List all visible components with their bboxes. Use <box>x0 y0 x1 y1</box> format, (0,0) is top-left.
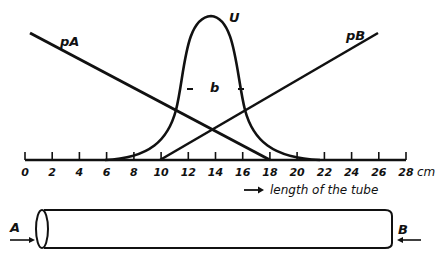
label-B: B <box>398 222 408 237</box>
label-A: A <box>9 220 20 235</box>
curve-pB: pB <box>160 28 378 160</box>
tick-label: 24 <box>344 166 359 179</box>
tick-label: 22 <box>317 166 333 179</box>
tick-label: 8 <box>130 166 138 179</box>
tick-label: 16 <box>235 166 251 179</box>
tick-label: 26 <box>371 166 387 179</box>
arrow-right-icon <box>258 187 264 194</box>
tick-label: 12 <box>181 166 197 179</box>
axis-caption: length of the tube <box>244 183 378 197</box>
label-U: U <box>229 10 240 25</box>
axis-tick-labels: 0 2 4 6 8 10 12 14 16 18 20 22 24 26 28 <box>21 166 414 179</box>
label-b: b <box>210 80 219 95</box>
tube-opening <box>36 210 48 248</box>
tick-label: 28 <box>398 166 414 179</box>
tick-label: 2 <box>48 166 56 179</box>
tube: A B <box>9 210 421 248</box>
axis-unit: cm <box>417 165 435 179</box>
label-pB: pB <box>345 28 365 43</box>
arrow-right-icon <box>29 237 35 243</box>
arrow-left-icon <box>397 237 403 243</box>
label-pA: pA <box>59 34 79 49</box>
caption-text: length of the tube <box>270 183 378 197</box>
tick-label: 6 <box>103 166 111 179</box>
tick-label: 4 <box>75 166 84 179</box>
tick-label: 20 <box>289 166 305 179</box>
tube-concentration-diagram: pA pB U b <box>0 0 443 257</box>
tick-label: 0 <box>21 166 29 179</box>
tick-label: 14 <box>208 166 223 179</box>
tick-label: 10 <box>153 166 169 179</box>
x-axis: 0 2 4 6 8 10 12 14 16 18 20 22 24 26 28 … <box>21 152 435 179</box>
tick-label: 18 <box>262 166 278 179</box>
